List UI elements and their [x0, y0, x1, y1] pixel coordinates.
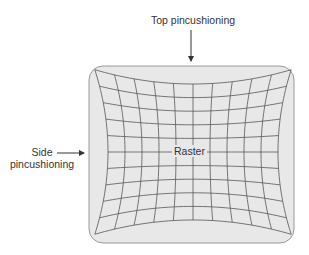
- side-label-line2: pincushioning: [8, 158, 76, 170]
- top-pincushioning-label: Top pincushioning: [151, 14, 235, 26]
- side-label-line1: Side: [8, 146, 76, 158]
- side-pincushioning-label: Side pincushioning: [8, 146, 76, 170]
- pincushion-diagram: [0, 0, 309, 255]
- raster-label: Raster: [172, 145, 207, 157]
